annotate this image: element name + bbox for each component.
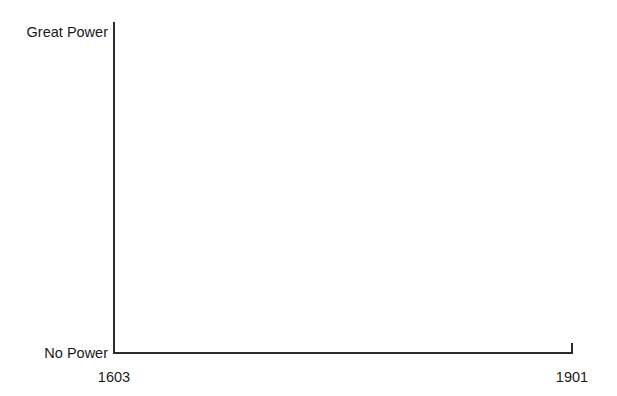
y-axis-label-great-power: Great Power (0, 25, 108, 40)
x-axis-line (113, 352, 573, 354)
y-axis-line (113, 22, 115, 354)
plot-area (115, 22, 573, 352)
y-axis-label-no-power: No Power (0, 346, 108, 361)
x-axis-end-tick (571, 343, 573, 354)
x-axis-tick-label-start: 1603 (98, 370, 130, 385)
chart-canvas: Great Power No Power 1603 1901 (0, 0, 617, 396)
x-axis-tick-label-end: 1901 (556, 370, 588, 385)
